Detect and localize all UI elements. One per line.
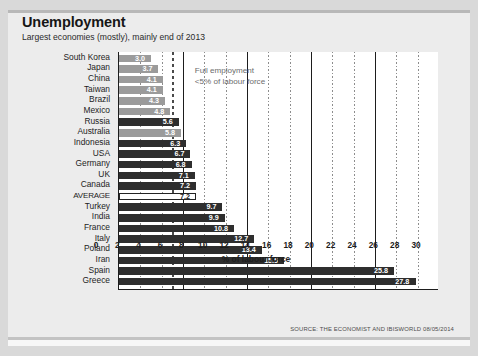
bar-value-label: 7.2 [180,182,190,190]
category-label: Greece [83,276,110,285]
x-axis-label: % of labour force [96,254,416,264]
x-tick-label: 28 [390,240,399,250]
x-tick-label: 8 [179,240,184,250]
bar-value-label: 6.8 [176,161,186,169]
x-tick-label: 16 [262,240,271,250]
category-label: Mexico [83,106,110,115]
bar-value-label: 6.7 [175,150,185,158]
bar-value-label: 6.3 [170,140,180,148]
x-tick-label: 6 [158,240,163,250]
category-label: Canada [81,180,110,189]
category-label: Australia [77,127,110,136]
category-label: Germany [76,159,110,168]
source-note: SOURCE: THE ECONOMIST AND IBISWORLD 08/0… [290,326,454,332]
x-tick-label: 30 [411,240,420,250]
bar-value-label: 4.1 [147,86,157,94]
card-bottom-strip [8,340,470,346]
category-label: Japan [87,63,110,72]
category-label: Indonesia [74,138,110,147]
category-label: France [84,223,110,232]
bar-value-label: 9.7 [207,203,217,211]
x-tick-label: 4 [136,240,141,250]
card-top-edge [8,10,470,13]
bar-value-label: 5.6 [163,118,173,126]
bar-value-label: 27.8 [395,278,409,286]
chart-page: Unemployment Largest economies (mostly),… [0,0,478,356]
bar [119,267,394,275]
x-tick-label: 22 [326,240,335,250]
x-tick-label: 24 [347,240,356,250]
category-label: Brazil [89,95,110,104]
x-tick-label: 18 [283,240,292,250]
x-tick-label: 10 [198,240,207,250]
x-tick-label: 0 [94,240,99,250]
bar-value-label: 4.8 [154,108,164,116]
category-label: Turkey [85,202,110,211]
category-label: India [92,212,110,221]
bar-value-label: 10.8 [214,225,228,233]
bar-value-label: 7.2 [180,193,190,201]
bar-value-label: 7.1 [179,172,189,180]
category-label: Taiwan [84,85,110,94]
bar-value-label: 3.7 [143,65,153,73]
bar-value-label: 5.8 [165,129,175,137]
category-label: China [88,74,110,83]
x-tick-label: 14 [241,240,250,250]
bar-value-label: 3.0 [135,55,145,63]
annotation-line-2: <5% of labour force [195,77,265,88]
page-title: Unemployment [22,14,205,31]
bar-value-label: 4.1 [147,76,157,84]
category-label: UK [98,170,110,179]
chart-header: Unemployment Largest economies (mostly),… [22,14,205,43]
x-tick-label: 20 [305,240,314,250]
category-label: Spain [89,266,110,275]
category-label: USA [93,149,110,158]
category-label: AVERAGE [73,191,110,200]
bar-value-label: 9.9 [209,214,219,222]
page-subtitle: Largest economies (mostly), mainly end o… [22,32,205,43]
category-label: Russia [84,117,110,126]
full-employment-annotation: Full employment <5% of labour force [195,66,265,87]
x-tick-label: 26 [369,240,378,250]
x-tick-label: 12 [219,240,228,250]
x-axis-ticks: 024681012141618202224262830 [96,240,416,254]
x-tick-label: 2 [115,240,120,250]
bar-value-label: 4.3 [149,97,159,105]
annotation-line-1: Full employment [195,66,265,77]
bar [119,278,416,286]
bar-value-label: 25.8 [374,267,388,275]
category-label: South Korea [63,53,110,62]
